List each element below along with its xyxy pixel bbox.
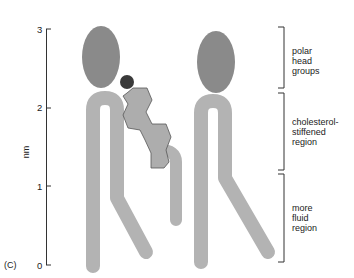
tick-label-0: 0: [37, 260, 42, 271]
cholesterol-steroid-rings: [123, 88, 171, 168]
region-label-polar-head-groups: polar head groups: [292, 46, 320, 76]
left-polar-head: [82, 26, 120, 88]
cholesterol-hydroxyl-group: [120, 75, 134, 89]
right-polar-head: [197, 31, 235, 93]
svg-text:groups: groups: [292, 66, 320, 76]
left-phospholipid: [82, 26, 146, 266]
svg-text:region: region: [292, 223, 317, 233]
region-label-cholesterol-stiffened: cholesterol- stiffened region: [292, 117, 339, 147]
region-label-more-fluid: more fluid region: [292, 203, 317, 233]
right-phospholipid: [197, 31, 268, 262]
y-axis: 3 2 1 0 nm: [21, 24, 51, 271]
tick-label-3: 3: [37, 24, 42, 35]
svg-text:polar: polar: [292, 46, 312, 56]
svg-text:region: region: [292, 137, 317, 147]
svg-text:head: head: [292, 56, 312, 66]
svg-text:cholesterol-: cholesterol-: [292, 117, 339, 127]
svg-text:stiffened: stiffened: [292, 127, 326, 137]
cholesterol: [120, 75, 176, 220]
svg-text:more: more: [292, 203, 313, 213]
tick-label-2: 2: [37, 102, 42, 113]
membrane-diagram: 3 2 1 0 nm (C) polar head groups cholest…: [0, 0, 354, 278]
panel-label: (C): [4, 260, 17, 270]
axis-unit-label: nm: [21, 146, 31, 159]
region-brackets: [278, 27, 284, 262]
svg-text:fluid: fluid: [292, 213, 309, 223]
tick-label-1: 1: [37, 181, 42, 192]
right-lipid-tails: [201, 101, 268, 262]
